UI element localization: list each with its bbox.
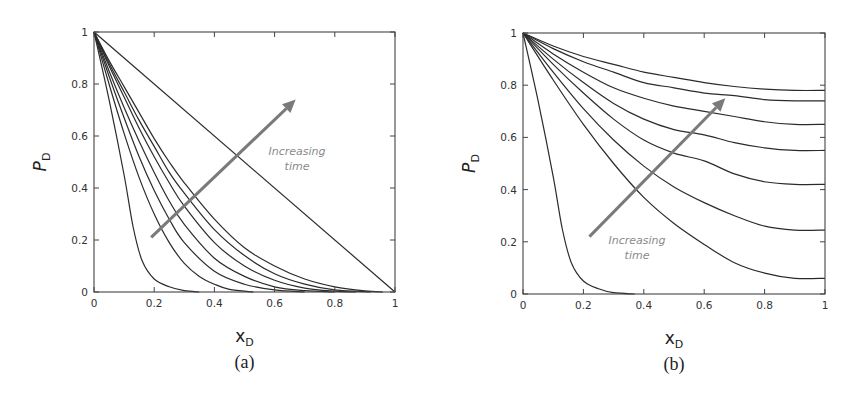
curve-t5 [523,33,825,151]
curve-t1 [523,33,635,294]
y-tick-label: 0.6 [71,130,88,142]
curves [94,32,395,292]
annotation-text: Increasingtime [608,234,665,262]
curve-t7 [94,32,383,292]
y-tick-label: 0.2 [500,236,517,248]
x-tick-label: 0.4 [635,299,652,311]
x-tick-label: 0.6 [696,299,713,311]
y-tick-label: 1 [81,26,88,38]
x-tick-label: 0.8 [326,297,343,309]
x-tick-label: 1 [822,299,829,311]
figure: 00.20.40.60.8100.20.40.60.81xDPDIncreasi… [0,0,851,401]
y-tick-label: 1 [510,27,517,39]
y-tick-label: 0 [81,286,88,298]
ticks: 00.20.40.60.8100.20.40.60.81 [500,27,828,311]
y-tick-label: 0.2 [71,234,88,246]
curves [523,33,825,294]
curve-t2 [523,33,825,279]
x-axis-label: xD [665,328,684,351]
chart-panel-b: 00.20.40.60.8100.20.40.60.81xDPDIncreasi… [459,27,828,375]
curve-t3 [523,33,825,230]
chart-panel-a: 00.20.40.60.8100.20.40.60.81xDPDIncreasi… [30,26,398,373]
y-axis-label: PD [30,153,53,172]
curve-t3 [94,32,305,292]
x-tick-label: 0 [91,297,98,309]
y-tick-label: 0.8 [71,78,88,90]
ticks: 00.20.40.60.8100.20.40.60.81 [71,26,398,309]
x-tick-label: 0.8 [756,299,773,311]
increasing-time-arrow-icon [151,100,295,238]
y-tick-label: 0 [510,288,517,300]
increasing-time-arrow-icon [589,98,725,236]
y-tick-label: 0.4 [500,184,517,196]
curve-t8 [523,33,825,91]
y-tick-label: 0.4 [71,182,88,194]
y-tick-label: 0.6 [500,131,517,143]
panel-caption: (b) [664,354,685,375]
curve-t1 [94,32,199,292]
panel-caption: (a) [235,352,255,373]
annotation-text: Increasingtime [268,145,325,173]
x-tick-label: 0.6 [266,297,283,309]
x-tick-label: 0.4 [206,297,223,309]
x-tick-label: 0 [520,299,527,311]
y-axis-label: PD [459,154,482,173]
x-tick-label: 0.2 [575,299,592,311]
curve-t6 [94,32,371,292]
x-axis-label: xD [235,326,254,349]
x-tick-label: 0.2 [146,297,163,309]
y-tick-label: 0.8 [500,79,517,91]
x-tick-label: 1 [392,297,399,309]
